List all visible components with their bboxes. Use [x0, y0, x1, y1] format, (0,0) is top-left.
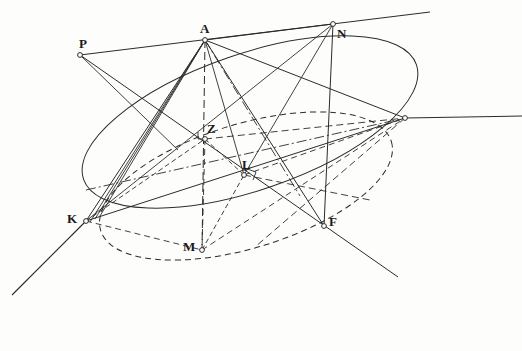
geometry-figure: A N P K Z L M F — [0, 0, 522, 351]
line-K-to-lower-left — [12, 221, 86, 295]
main-ellipse-group — [61, 0, 438, 243]
point-marker-L[interactable] — [242, 173, 247, 178]
point-label-M: M — [183, 240, 195, 253]
line-P-to-bundle — [80, 55, 178, 150]
point-label-P: P — [79, 37, 87, 50]
line-dashdot-L-to-F-lower — [244, 175, 370, 200]
point-label-F: F — [329, 215, 337, 228]
point-marker-P[interactable] — [78, 53, 83, 58]
point-label-A: A — [200, 22, 209, 35]
line-A-to-V — [205, 40, 405, 118]
point-label-N: N — [337, 27, 346, 40]
inner-dashed-ellipse-group — [83, 82, 410, 289]
main-ellipse — [61, 0, 438, 243]
line-dashdot-Z-to-V — [205, 118, 405, 139]
inner-dashed-ellipse — [83, 82, 410, 289]
line-A-to-L — [205, 40, 244, 175]
secant-lines-group — [12, 12, 522, 295]
line-dashdot-K-to-V — [86, 118, 405, 190]
point-marker-K[interactable] — [84, 219, 89, 224]
line-A-K — [86, 40, 205, 221]
point-marker-F[interactable] — [322, 224, 327, 229]
point-label-K: K — [67, 212, 77, 225]
line-dashdot-A-through-L — [205, 40, 300, 196]
point-label-Z: Z — [207, 122, 216, 135]
line-N-to-L — [244, 24, 333, 175]
point-label-L: L — [242, 158, 251, 171]
line-A-K-alt-3 — [100, 40, 205, 216]
point-marker-Z[interactable] — [203, 137, 208, 142]
line-V-to-right-edge — [405, 116, 522, 118]
point-marker-N[interactable] — [331, 22, 336, 27]
figure-canvas — [0, 0, 522, 351]
dashdot-lines-group — [86, 40, 405, 250]
line-dashdot-L-to-V — [244, 118, 405, 175]
point-marker-M[interactable] — [200, 248, 205, 253]
line-A-Z-M-vertical — [202, 40, 205, 250]
line-dashdot-Z-to-L — [205, 139, 244, 175]
line-dashdot-M-to-L — [202, 175, 244, 250]
line-N-to-F — [324, 24, 333, 226]
point-marker-A[interactable] — [203, 38, 208, 43]
line-dashdot-K-to-Z — [86, 139, 205, 221]
point-marker-vertex[interactable] — [403, 116, 408, 121]
point-markers-group — [78, 22, 408, 253]
